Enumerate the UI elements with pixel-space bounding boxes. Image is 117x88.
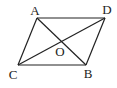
label-B: B — [84, 66, 93, 81]
label-D: D — [102, 2, 111, 17]
edge-CA — [18, 18, 37, 65]
parallelogram-diagram: A D C B O — [0, 0, 117, 88]
edge-DB — [86, 18, 105, 65]
label-C: C — [9, 67, 18, 82]
label-O: O — [55, 44, 64, 59]
label-A: A — [30, 3, 40, 18]
